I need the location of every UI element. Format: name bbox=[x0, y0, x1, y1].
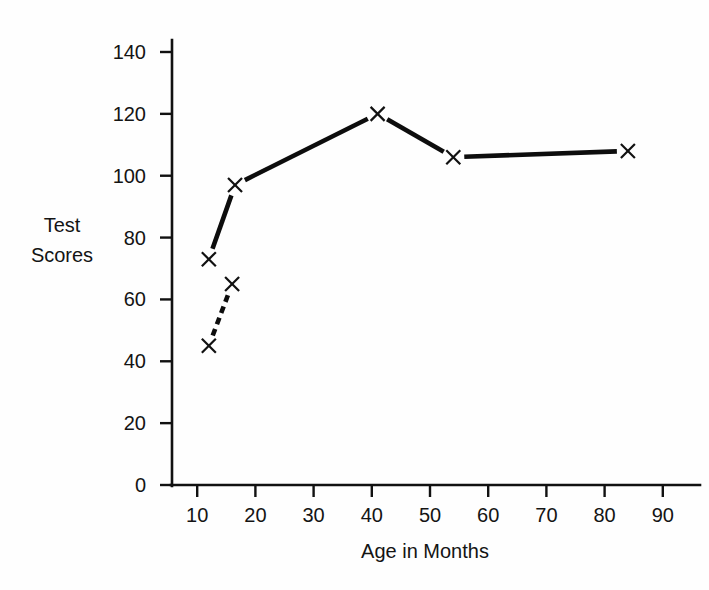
y-axis-title-line-2: Scores bbox=[31, 244, 93, 266]
data-markers-layer bbox=[202, 107, 635, 353]
y-tick-label-80: 80 bbox=[124, 227, 146, 249]
data-point-marker bbox=[202, 252, 216, 266]
series-0-segment-0 bbox=[212, 195, 231, 248]
x-tick-label-90: 90 bbox=[652, 504, 674, 526]
x-axis-title: Age in Months bbox=[361, 540, 489, 562]
y-tick-label-120: 120 bbox=[113, 103, 146, 125]
axis-lines bbox=[171, 40, 700, 486]
series-1-segment-0 bbox=[213, 294, 229, 335]
x-tick-label-20: 20 bbox=[244, 504, 266, 526]
series-0-segment-1 bbox=[245, 119, 368, 180]
y-tick-label-140: 140 bbox=[113, 41, 146, 63]
x-tick-label-30: 30 bbox=[302, 504, 324, 526]
y-tick-label-100: 100 bbox=[113, 165, 146, 187]
y-axis-tick-labels: 020406080100120140 bbox=[113, 41, 146, 496]
data-point-marker bbox=[228, 178, 242, 192]
series-0-segment-3 bbox=[464, 151, 617, 156]
y-tick-label-40: 40 bbox=[124, 350, 146, 372]
x-axis-tick-labels: 102030405060708090 bbox=[186, 504, 674, 526]
x-tick-label-80: 80 bbox=[593, 504, 615, 526]
y-tick-label-20: 20 bbox=[124, 412, 146, 434]
x-tick-label-40: 40 bbox=[361, 504, 383, 526]
data-point-marker bbox=[225, 277, 239, 291]
series-0-segment-2 bbox=[387, 119, 444, 151]
data-point-marker bbox=[446, 150, 460, 164]
y-tick-label-60: 60 bbox=[124, 288, 146, 310]
data-series-layer bbox=[212, 119, 616, 336]
x-tick-label-10: 10 bbox=[186, 504, 208, 526]
line-chart: 020406080100120140 102030405060708090 Te… bbox=[0, 0, 709, 590]
x-tick-label-50: 50 bbox=[419, 504, 441, 526]
data-point-marker bbox=[202, 339, 216, 353]
chart-figure: 020406080100120140 102030405060708090 Te… bbox=[0, 0, 709, 590]
data-point-marker bbox=[621, 144, 635, 158]
x-tick-label-60: 60 bbox=[477, 504, 499, 526]
data-point-marker bbox=[371, 107, 385, 121]
y-tick-label-0: 0 bbox=[135, 474, 146, 496]
y-axis-title-line-1: Test bbox=[44, 214, 81, 236]
x-tick-label-70: 70 bbox=[535, 504, 557, 526]
